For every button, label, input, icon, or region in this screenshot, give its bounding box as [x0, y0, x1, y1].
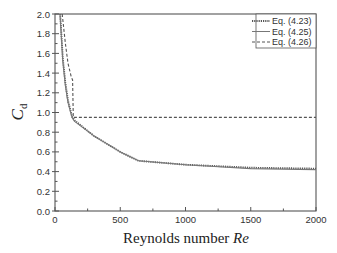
x-axis: 0500100015002000 [52, 207, 326, 225]
y-tick-label: 1.4 [37, 68, 50, 79]
legend-label: Eq. (4.25) [272, 27, 312, 37]
x-tick-label: 500 [112, 214, 128, 225]
y-tick-label: 0.2 [37, 186, 50, 197]
y-tick-label: 0.8 [37, 127, 50, 138]
chart: 0500100015002000 0.00.20.40.60.81.01.21.… [0, 0, 337, 253]
legend-label: Eq. (4.23) [272, 16, 312, 26]
y-tick-label: 0.4 [37, 166, 50, 177]
y-tick-label: 2.0 [37, 9, 50, 20]
x-axis-title: Reynolds number Re [123, 230, 249, 246]
y-tick-label: 1.8 [37, 28, 50, 39]
x-tick-label: 2000 [305, 214, 326, 225]
x-tick-label: 0 [52, 214, 57, 225]
y-tick-label: 0.6 [37, 146, 50, 157]
legend-label: Eq. (4.26) [272, 37, 312, 47]
y-axis: 0.00.20.40.60.81.01.21.41.61.82.0 [37, 9, 59, 217]
y-tick-label: 1.0 [37, 107, 50, 118]
y-axis-title: Cd [8, 103, 29, 120]
x-tick-label: 1000 [175, 214, 196, 225]
y-tick-label: 1.2 [37, 87, 50, 98]
y-tick-label: 1.6 [37, 48, 50, 59]
x-tick-label: 1500 [240, 214, 261, 225]
y-tick-label: 0.0 [37, 206, 50, 217]
legend: Eq. (4.23)Eq. (4.25)Eq. (4.26) [252, 14, 316, 48]
